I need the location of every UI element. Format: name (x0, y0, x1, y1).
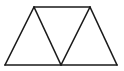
triangle-diagram (0, 0, 124, 71)
segment-BE (90, 7, 117, 65)
segment-AD (34, 7, 61, 65)
trapezoid-figure (0, 0, 124, 71)
segment-BD (61, 7, 90, 65)
segment-AC (5, 7, 34, 65)
